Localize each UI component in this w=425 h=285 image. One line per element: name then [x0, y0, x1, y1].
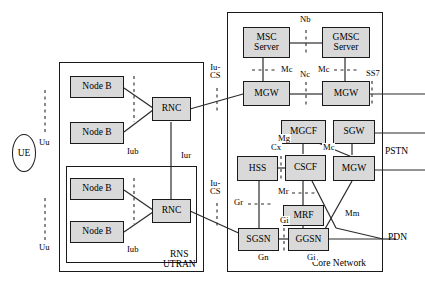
iface-iucs-bottom: Iu- CS: [209, 179, 222, 196]
iface-gi-ggsn: Gi: [306, 253, 317, 262]
iface-iub-top: Iub: [126, 147, 139, 156]
iface-mm: Mm: [344, 209, 360, 218]
iface-uu-bottom: Uu: [38, 243, 51, 252]
iface-gr: Gr: [233, 198, 244, 207]
iface-mc-left: Mc: [280, 65, 293, 74]
node-rnc2[interactable]: RNC: [152, 199, 191, 223]
node-nodeb2[interactable]: Node B: [70, 122, 124, 144]
node-cscf[interactable]: CSCF: [285, 155, 326, 181]
node-gmsc-server[interactable]: GMSC Server: [322, 27, 370, 58]
iface-mr: Mr: [277, 187, 290, 196]
iface-iub-bottom: Iub: [126, 245, 139, 254]
iface-uu-top: Uu: [38, 138, 51, 147]
node-hss[interactable]: HSS: [237, 156, 278, 181]
ue-label: UE: [18, 148, 31, 158]
group-label-core-network: Core Network: [312, 258, 366, 268]
iface-gn: Gn: [257, 253, 270, 262]
node-nodeb3[interactable]: Node B: [70, 178, 124, 200]
node-sgsn[interactable]: SGSN: [238, 228, 279, 251]
node-nodeb4[interactable]: Node B: [70, 221, 124, 243]
node-mgw-ims[interactable]: MGW: [333, 156, 375, 181]
iface-mc-right: Mc: [317, 65, 330, 74]
iface-nb: Nb: [299, 15, 312, 24]
external-pdn: PDN: [388, 232, 407, 242]
iface-gi-mrf: Gi: [279, 216, 290, 225]
node-mgw-msc[interactable]: MGW: [243, 81, 290, 106]
node-nodeb1[interactable]: Node B: [70, 76, 124, 98]
iface-iucs-top: Iu- CS: [209, 63, 222, 80]
external-pstn: PSTN: [385, 146, 408, 156]
iface-iur: Iur: [180, 151, 192, 160]
iface-nc: Nc: [299, 70, 311, 79]
node-msc-server[interactable]: MSC Server: [243, 27, 290, 58]
node-mgw-gmsc[interactable]: MGW: [322, 81, 370, 106]
node-rnc1[interactable]: RNC: [152, 97, 191, 121]
iface-ss7: SS7: [365, 69, 381, 78]
network-architecture-diagram: UTRAN RNS Core Network: [0, 0, 425, 285]
node-sgw[interactable]: SGW: [333, 120, 375, 144]
node-ggsn[interactable]: GGSN: [288, 228, 329, 251]
group-label-utran: UTRAN: [163, 259, 196, 269]
iface-cx: Cx: [270, 143, 282, 152]
ue-terminal[interactable]: UE: [12, 134, 36, 172]
iface-mc-mgcf: Mc: [322, 143, 335, 152]
group-label-rns: RNS: [170, 249, 188, 259]
